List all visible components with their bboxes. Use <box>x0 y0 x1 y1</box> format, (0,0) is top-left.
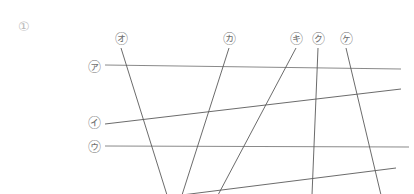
lines-group <box>105 48 409 194</box>
label-ki: ㋖ <box>290 32 303 45</box>
label-o: ㋔ <box>115 32 128 45</box>
label-a: ㋐ <box>88 60 101 73</box>
label-u: ㋒ <box>88 140 101 153</box>
line-ki <box>218 48 296 194</box>
label-ka: ㋕ <box>223 32 236 45</box>
line-u <box>105 146 409 147</box>
figure-number: ① <box>18 20 30 33</box>
line-ku <box>312 48 318 194</box>
label-ke: ㋘ <box>340 32 353 45</box>
line-diagram <box>0 0 414 194</box>
label-ku: ㋗ <box>312 32 325 45</box>
label-i: ㋑ <box>88 116 101 129</box>
figure-canvas: ① ㋐㋑㋒㋔㋕㋖㋗㋘ <box>0 0 414 194</box>
line-e <box>182 168 396 194</box>
line-a <box>105 65 401 69</box>
line-ka <box>182 48 229 194</box>
